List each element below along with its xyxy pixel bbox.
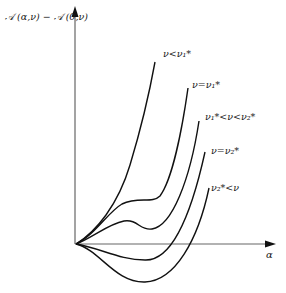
curve-label-4: ν=ν₂*	[211, 145, 239, 156]
curve-label-2: ν=ν₁*	[192, 79, 220, 90]
curve-label-5: ν₂*<ν	[211, 182, 239, 193]
free-energy-diagram: 𝒜 (α,ν) − 𝒜 (0,ν) α ν<ν₁* ν=ν₁* ν₁*<ν<ν₂…	[0, 0, 286, 293]
x-axis-arrow-icon	[265, 241, 276, 248]
curve-1	[76, 62, 155, 244]
y-axis-label: 𝒜 (α,ν) − 𝒜 (0,ν)	[5, 11, 88, 22]
curve-label-1: ν<ν₁*	[163, 48, 191, 59]
curve-5	[76, 188, 209, 282]
x-axis-label: α	[266, 249, 273, 260]
curve-label-3: ν₁*<ν<ν₂*	[205, 111, 256, 122]
curve-2	[76, 88, 188, 244]
